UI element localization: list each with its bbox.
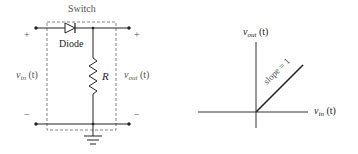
resistor-icon bbox=[89, 58, 97, 94]
output-bottom-terminal bbox=[127, 122, 130, 125]
vout-label: vout (t) bbox=[124, 70, 149, 80]
resistor-label: R bbox=[102, 71, 109, 82]
junction-dot bbox=[92, 123, 95, 126]
input-bottom-terminal bbox=[34, 122, 37, 125]
input-top-terminal bbox=[34, 26, 37, 29]
switch-label: Switch bbox=[68, 4, 96, 14]
diode-icon bbox=[65, 23, 75, 33]
vin-label: vin (t) bbox=[16, 70, 38, 80]
input-minus-sign: − bbox=[24, 110, 30, 120]
graph-y-axis-label: vout (t) bbox=[243, 27, 268, 37]
graph-x-axis-label: vin (t) bbox=[314, 106, 336, 116]
input-plus-sign: + bbox=[24, 30, 30, 40]
ground-icon bbox=[84, 136, 102, 144]
junction-dot bbox=[92, 27, 95, 30]
output-plus-sign: + bbox=[134, 30, 140, 40]
output-minus-sign: − bbox=[134, 110, 140, 120]
diagram-canvas bbox=[0, 0, 358, 154]
output-top-terminal bbox=[127, 26, 130, 29]
diode-label: Diode bbox=[59, 39, 83, 49]
